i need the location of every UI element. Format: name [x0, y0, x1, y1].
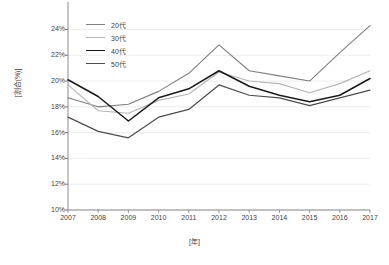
line-chart-figure: [割合(%)] 10%12%14%16%18%20%22%24% 2007200…	[0, 0, 389, 265]
series-line-50代	[68, 85, 370, 138]
legend-item-label: 50代	[111, 59, 126, 69]
legend-swatch-icon	[86, 37, 105, 38]
y-tick-label: 20%	[41, 77, 65, 85]
y-tick-label: 14%	[41, 154, 65, 162]
x-axis-title: [年]	[0, 236, 389, 246]
x-tick-label: 2014	[262, 214, 296, 221]
legend-swatch-icon	[86, 24, 105, 25]
series-line-40代	[68, 71, 370, 121]
y-tick-label: 10%	[41, 206, 65, 214]
y-tick-label: 18%	[41, 103, 65, 111]
x-tick-label: 2007	[51, 214, 85, 221]
legend-item-50代[interactable]: 50代	[86, 57, 148, 70]
x-tick-label: 2015	[293, 214, 327, 221]
y-tick-label: 22%	[41, 51, 65, 59]
y-tick-label: 24%	[41, 25, 65, 33]
x-tick-label: 2008	[81, 214, 115, 221]
y-tick-label: 12%	[41, 180, 65, 188]
legend-item-40代[interactable]: 40代	[86, 44, 148, 57]
legend-item-label: 30代	[111, 33, 126, 43]
x-tick-label: 2012	[202, 214, 236, 221]
legend-item-label: 20代	[111, 20, 126, 30]
x-tick-label: 2013	[232, 214, 266, 221]
x-tick-label: 2011	[172, 214, 206, 221]
y-axis-title: [割合(%)]	[12, 35, 22, 131]
y-tick-label: 16%	[41, 129, 65, 137]
legend-item-20代[interactable]: 20代	[86, 18, 148, 31]
chart-legend: 20代30代40代50代	[86, 18, 148, 70]
x-tick-label: 2010	[142, 214, 176, 221]
legend-swatch-icon	[86, 50, 105, 51]
legend-item-label: 40代	[111, 46, 126, 56]
x-tick-label: 2016	[323, 214, 357, 221]
legend-swatch-icon	[86, 63, 105, 64]
legend-item-30代[interactable]: 30代	[86, 31, 148, 44]
x-tick-label: 2009	[111, 214, 145, 221]
x-tick-label: 2017	[353, 214, 387, 221]
